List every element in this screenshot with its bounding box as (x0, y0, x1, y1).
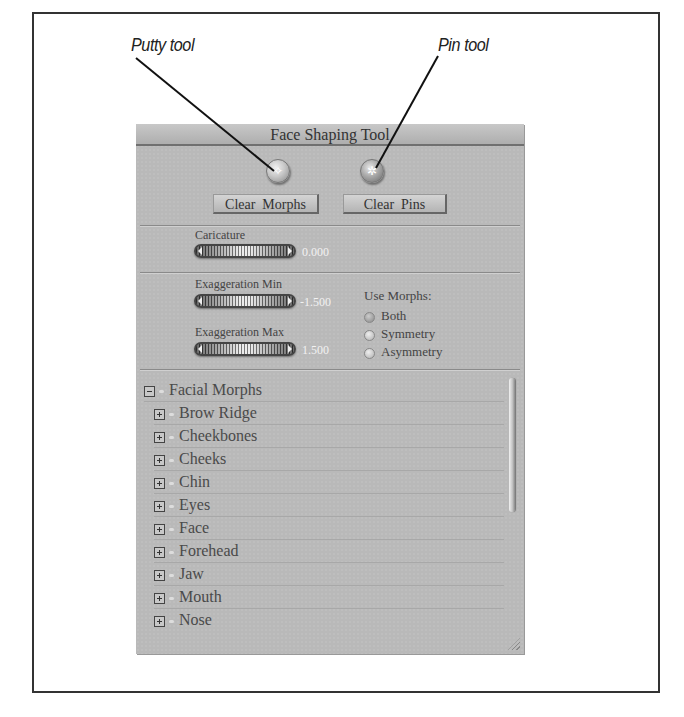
tree-node[interactable]: Cheekbones (154, 425, 504, 448)
expand-icon[interactable] (154, 478, 165, 489)
tree-node-label: Mouth (179, 588, 222, 605)
collapse-icon[interactable] (144, 386, 155, 397)
expand-icon[interactable] (154, 524, 165, 535)
pin-icon: ✲ (361, 160, 383, 182)
tree-node-label: Nose (179, 611, 212, 628)
tree-node[interactable]: Forehead (154, 540, 504, 563)
divider (140, 272, 520, 274)
bullet-icon (169, 597, 174, 600)
tree-node-label: Cheekbones (179, 427, 257, 444)
radio-button-icon (364, 330, 375, 341)
tree-node[interactable]: Jaw (154, 563, 504, 586)
tree-scrollbar[interactable] (509, 378, 515, 512)
putty-tool-callout: Putty tool (131, 34, 194, 56)
bullet-icon (169, 528, 174, 531)
divider (140, 225, 520, 227)
radio-asymmetry[interactable]: Asymmetry (364, 344, 442, 360)
radio-label: Symmetry (381, 326, 435, 341)
exaggeration-max-label: Exaggeration Max (195, 325, 284, 340)
putty-icon: ✧ (267, 160, 289, 182)
dial-right-arrow-icon (288, 247, 292, 255)
expand-icon[interactable] (154, 432, 165, 443)
bullet-icon (169, 413, 174, 416)
use-morphs-label: Use Morphs: (364, 288, 432, 304)
bullet-icon (169, 551, 174, 554)
bullet-icon (169, 505, 174, 508)
tree-node-label: Brow Ridge (179, 404, 257, 421)
face-shaping-tool-panel: Face Shaping Tool ✧ ✲ Clear Morphs Clear… (136, 124, 524, 654)
radio-button-icon (364, 348, 375, 359)
tree-node-label: Forehead (179, 542, 239, 559)
dial-left-arrow-icon (198, 345, 202, 353)
bullet-icon (169, 620, 174, 623)
divider (140, 369, 520, 371)
pin-tool-callout: Pin tool (438, 34, 488, 56)
bullet-icon (169, 574, 174, 577)
tree-node[interactable]: Eyes (154, 494, 504, 517)
expand-icon[interactable] (154, 501, 165, 512)
expand-icon[interactable] (154, 409, 165, 420)
radio-symmetry[interactable]: Symmetry (364, 326, 435, 342)
tree-node-facial-morphs[interactable]: Facial Morphs (144, 379, 504, 402)
clear-morphs-button[interactable]: Clear Morphs (213, 194, 319, 214)
tree-node-label: Face (179, 519, 209, 536)
caricature-value[interactable]: 0.000 (302, 245, 329, 260)
expand-icon[interactable] (154, 593, 165, 604)
tree-node-label: Cheeks (179, 450, 226, 467)
radio-button-icon (364, 312, 375, 323)
expand-icon[interactable] (154, 616, 165, 627)
tree-node[interactable]: Cheeks (154, 448, 504, 471)
exaggeration-max-dial[interactable] (194, 342, 296, 356)
pin-tool-button[interactable]: ✲ (360, 159, 384, 183)
bullet-icon (159, 390, 164, 393)
exaggeration-min-value[interactable]: -1.500 (300, 295, 331, 310)
caricature-dial[interactable] (194, 244, 296, 258)
dial-left-arrow-icon (198, 247, 202, 255)
tree-node-label: Jaw (179, 565, 204, 582)
tree-node[interactable]: Chin (154, 471, 504, 494)
tree-node[interactable]: Brow Ridge (154, 402, 504, 425)
exaggeration-min-label: Exaggeration Min (195, 277, 282, 292)
exaggeration-max-value[interactable]: 1.500 (302, 343, 329, 358)
expand-icon[interactable] (154, 570, 165, 581)
dial-left-arrow-icon (198, 297, 202, 305)
radio-both[interactable]: Both (364, 308, 406, 324)
expand-icon[interactable] (154, 455, 165, 466)
putty-tool-button[interactable]: ✧ (266, 159, 290, 183)
expand-icon[interactable] (154, 547, 165, 558)
tree-node-label: Eyes (179, 496, 210, 513)
radio-label: Asymmetry (381, 344, 442, 359)
resize-grip-icon[interactable] (508, 638, 520, 650)
bullet-icon (169, 436, 174, 439)
bullet-icon (169, 459, 174, 462)
tree-node[interactable]: Nose (154, 609, 504, 632)
tree-node[interactable]: Mouth (154, 586, 504, 609)
dial-right-arrow-icon (288, 297, 292, 305)
tree-node[interactable]: Face (154, 517, 504, 540)
dial-right-arrow-icon (288, 345, 292, 353)
panel-title[interactable]: Face Shaping Tool (136, 124, 524, 146)
tree-node-label: Facial Morphs (169, 381, 262, 398)
bullet-icon (169, 482, 174, 485)
radio-label: Both (381, 308, 406, 323)
clear-pins-button[interactable]: Clear Pins (343, 194, 447, 214)
exaggeration-min-dial[interactable] (194, 294, 296, 308)
tree-node-label: Chin (179, 473, 210, 490)
caricature-label: Caricature (195, 228, 245, 243)
